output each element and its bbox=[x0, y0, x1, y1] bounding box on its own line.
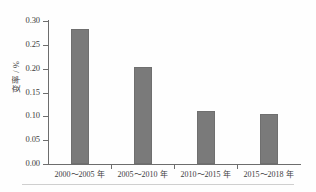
footer-divider bbox=[22, 184, 294, 185]
y-axis-tick-label: 0.25 bbox=[0, 40, 40, 49]
x-axis-tick-label: 2015～2018 年 bbox=[226, 169, 312, 180]
bar bbox=[197, 111, 215, 164]
bar bbox=[71, 29, 89, 164]
y-axis-tick-label: 0.30 bbox=[0, 16, 40, 25]
bar-chart-figure: 变率 / % 0.000.050.100.150.200.250.30 2000… bbox=[0, 0, 316, 192]
y-axis-tick bbox=[43, 164, 49, 165]
bar bbox=[260, 114, 278, 164]
y-axis-tick-label: 0.05 bbox=[0, 135, 40, 144]
y-axis-tick-label: 0.15 bbox=[0, 88, 40, 97]
y-axis-tick-label: 0.00 bbox=[0, 159, 40, 168]
plot-area bbox=[49, 21, 300, 164]
y-axis-title: 变率 / % bbox=[11, 46, 21, 108]
bar bbox=[134, 67, 152, 164]
y-axis-tick-label: 0.20 bbox=[0, 64, 40, 73]
y-axis-tick-label: 0.10 bbox=[0, 111, 40, 120]
